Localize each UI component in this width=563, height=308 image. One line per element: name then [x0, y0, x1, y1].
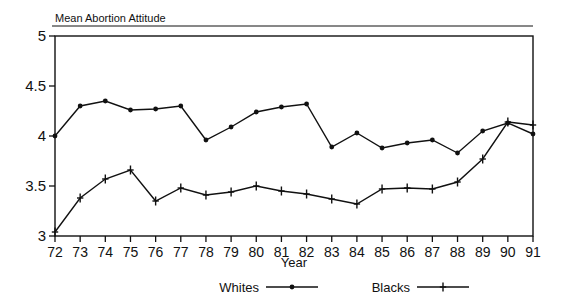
data-point [303, 190, 309, 199]
data-point [429, 185, 435, 194]
chart-figure: Mean Abortion Attitude 33.544.55 7273747… [0, 0, 563, 308]
data-point [380, 146, 385, 151]
y-tick-label: 3 [38, 227, 46, 244]
line-chart-svg: Mean Abortion Attitude 33.544.55 7273747… [0, 0, 563, 308]
series-line-blacks [55, 122, 533, 232]
data-point [531, 132, 536, 137]
data-point [430, 138, 435, 143]
legend-label-blacks: Blacks [372, 280, 411, 295]
x-tick-label: 91 [525, 244, 541, 260]
x-tick-label: 80 [248, 244, 264, 260]
plot-frame [55, 36, 533, 236]
x-tick-label: 79 [223, 244, 239, 260]
data-point [278, 187, 284, 196]
data-point [404, 184, 410, 193]
data-point [405, 141, 410, 146]
data-point [530, 121, 536, 130]
x-tick-label: 77 [173, 244, 189, 260]
series-whites [53, 99, 536, 156]
x-tick-label: 85 [374, 244, 390, 260]
data-point [329, 195, 335, 204]
x-tick-label: 86 [399, 244, 415, 260]
data-point [153, 107, 158, 112]
y-tick-label: 5 [38, 27, 46, 44]
data-point [178, 184, 184, 193]
x-tick-label: 78 [198, 244, 214, 260]
data-point [279, 105, 284, 110]
x-tick-label: 83 [324, 244, 340, 260]
data-point [354, 200, 360, 209]
x-tick-label: 88 [450, 244, 466, 260]
y-tick-label: 4.5 [25, 77, 46, 94]
chart-legend: WhitesBlacks [219, 280, 469, 295]
legend-label-whites: Whites [219, 280, 259, 295]
data-point [204, 138, 209, 143]
x-tick-label: 76 [148, 244, 164, 260]
x-tick-label: 84 [349, 244, 365, 260]
legend-marker-blacks [440, 283, 446, 292]
x-tick-label: 89 [475, 244, 491, 260]
data-point [329, 145, 334, 150]
x-tick-label: 87 [425, 244, 441, 260]
chart-title-group: Mean Abortion Attitude [52, 12, 533, 26]
x-axis-title: Year [281, 255, 308, 270]
data-point [228, 188, 234, 197]
y-tick-label: 4 [38, 127, 46, 144]
data-point [354, 131, 359, 136]
data-point [78, 104, 83, 109]
chart-title: Mean Abortion Attitude [55, 12, 166, 24]
data-point [454, 178, 460, 187]
data-point [254, 110, 259, 115]
data-point [480, 129, 485, 134]
x-tick-label: 75 [123, 244, 139, 260]
y-axis-group: 33.544.55 [25, 27, 55, 244]
data-point [203, 191, 209, 200]
plot-frame-group [55, 36, 533, 236]
y-tick-label: 3.5 [25, 177, 46, 194]
data-point [103, 99, 108, 104]
data-point [455, 151, 460, 156]
legend-marker-whites [290, 285, 295, 290]
data-point [128, 108, 133, 113]
x-tick-label: 74 [98, 244, 114, 260]
series-blacks [52, 118, 536, 237]
x-tick-label: 90 [500, 244, 516, 260]
data-point [304, 102, 309, 107]
data-point [178, 104, 183, 109]
data-point [379, 185, 385, 194]
data-point [102, 175, 108, 184]
data-point [53, 134, 58, 139]
data-point [253, 182, 259, 191]
data-point [229, 125, 234, 130]
series-line-whites [55, 101, 533, 153]
x-tick-label: 73 [72, 244, 88, 260]
x-tick-label: 72 [47, 244, 63, 260]
series-group [52, 99, 536, 237]
